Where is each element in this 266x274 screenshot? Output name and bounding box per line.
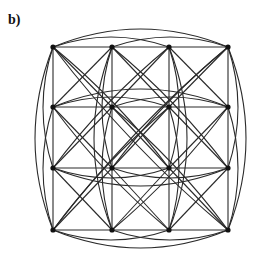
graph-node [225, 44, 230, 49]
graph-node [109, 104, 114, 109]
edge [94, 47, 112, 230]
edge [53, 168, 228, 186]
edge [35, 47, 53, 230]
queen-graph-diagram [0, 0, 266, 274]
graph-node [166, 227, 171, 232]
graph-node [109, 165, 114, 170]
graph-node [166, 44, 171, 49]
edge [53, 29, 228, 47]
graph-node [166, 104, 171, 109]
graph-node [50, 227, 55, 232]
graph-node [225, 165, 230, 170]
graph-node [109, 44, 114, 49]
graph-node [225, 227, 230, 232]
edge [53, 89, 228, 107]
graph-node [50, 165, 55, 170]
graph-node [225, 104, 230, 109]
edge [169, 47, 187, 230]
graph-node [50, 44, 55, 49]
graph-node [166, 165, 171, 170]
edge [53, 230, 228, 248]
graph-figure: b) [0, 0, 266, 274]
edge [228, 47, 246, 230]
graph-node [109, 227, 114, 232]
graph-node [50, 104, 55, 109]
